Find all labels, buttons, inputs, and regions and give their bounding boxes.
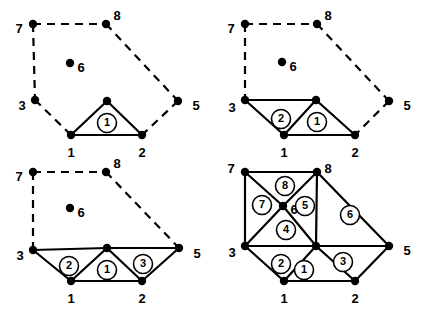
element-label-6: 6 [347,208,353,220]
node-dot-7 [29,20,37,28]
dashed-edge-8-5 [317,24,389,101]
node-label-5: 5 [403,98,410,113]
node-label-8: 8 [113,8,120,23]
node-label-2: 2 [138,291,145,306]
element-label-2: 2 [66,259,72,271]
dashed-edge-5-2 [355,101,389,135]
node-label-3: 3 [16,248,23,263]
node-dot-6 [66,59,74,67]
element-label-3: 3 [340,255,346,267]
dashed-edge-7-3 [33,24,35,100]
element-label-2: 2 [278,257,284,269]
mesh-generation-figure: 1235678112356782112356782131235678123456… [0,0,427,317]
node-label-3: 3 [228,100,235,115]
node-label-6: 6 [77,60,84,75]
node-dot-4 [103,97,111,105]
element-label-1: 1 [314,115,320,127]
element-label-7: 7 [259,198,265,210]
node-dot-6 [66,204,74,212]
node-dot-2 [138,131,146,139]
solid-edge-2-5 [355,246,389,281]
node-label-8: 8 [324,161,331,176]
node-dot-4 [312,242,320,250]
node-dot-8 [313,20,321,28]
element-label-3: 3 [140,257,146,269]
node-dot-8 [102,20,110,28]
node-dot-2 [138,277,146,285]
node-label-1: 1 [280,145,287,160]
node-label-3: 3 [18,98,25,113]
element-label-1: 1 [104,263,110,275]
node-dot-7 [241,20,249,28]
node-label-2: 2 [138,145,145,160]
node-dot-8 [313,168,321,176]
node-label-1: 1 [280,291,287,306]
panel-bottom-right: 123567812345678 [227,161,410,306]
node-dot-6 [279,202,287,210]
dashed-edge-3-1 [35,100,71,135]
node-label-6: 6 [289,59,296,74]
node-label-5: 5 [193,246,200,261]
panel-bottom-left: 1235678213 [15,156,200,306]
node-dot-5 [385,97,393,105]
element-label-8: 8 [282,179,288,191]
node-dot-8 [102,168,110,176]
element-label-5: 5 [302,199,308,211]
node-label-2: 2 [351,291,358,306]
node-label-8: 8 [324,8,331,23]
node-dot-6 [278,58,286,66]
dashed-edge-8-5 [106,24,178,101]
node-label-1: 1 [67,145,74,160]
node-dot-5 [385,242,393,250]
node-dot-1 [67,131,75,139]
node-label-1: 1 [67,291,74,306]
node-dot-3 [31,96,39,104]
node-dot-4 [312,96,320,104]
node-dot-7 [29,168,37,176]
element-label-4: 4 [283,223,290,235]
node-dot-2 [351,131,359,139]
node-label-3: 3 [228,245,235,260]
node-label-7: 7 [15,169,22,184]
node-label-6: 6 [77,205,84,220]
node-label-7: 7 [227,21,234,36]
solid-edge-3-4 [33,248,107,250]
node-dot-5 [175,244,183,252]
node-dot-3 [241,96,249,104]
figure-container: 1235678112356782112356782131235678123456… [0,0,427,317]
node-label-7: 7 [227,161,234,176]
node-label-2: 2 [351,145,358,160]
dashed-edge-8-5 [106,172,179,248]
panel-top-right: 123567821 [227,8,410,160]
element-label-1: 1 [301,263,307,275]
panel-top-left: 12356781 [15,8,199,160]
node-label-7: 7 [15,21,22,36]
node-dot-7 [241,168,249,176]
node-label-5: 5 [403,243,410,258]
element-label-1: 1 [104,116,110,128]
node-dot-1 [280,131,288,139]
node-label-8: 8 [113,156,120,171]
node-dot-1 [280,277,288,285]
dashed-edge-5-2 [142,101,178,135]
node-dot-2 [351,277,359,285]
element-label-2: 2 [278,112,284,124]
node-label-5: 5 [192,98,199,113]
node-dot-3 [241,242,249,250]
node-dot-1 [67,277,75,285]
node-dot-5 [174,97,182,105]
solid-edge-4-8 [316,172,317,246]
node-dot-4 [103,244,111,252]
node-dot-3 [29,246,37,254]
